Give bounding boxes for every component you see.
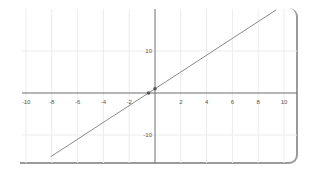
intercept-point[interactable] bbox=[153, 87, 157, 91]
graph-plot[interactable]: -10-8-6-4-224681010-10 bbox=[0, 0, 319, 173]
x-tick-label: -10 bbox=[22, 99, 31, 105]
y-tick-label: 10 bbox=[145, 48, 152, 54]
y-tick-label: -10 bbox=[143, 132, 152, 138]
x-tick-label: -8 bbox=[49, 99, 55, 105]
x-tick-label: 8 bbox=[257, 99, 261, 105]
x-tick-label: 6 bbox=[231, 99, 235, 105]
x-tick-label: 4 bbox=[205, 99, 209, 105]
x-tick-label: -4 bbox=[101, 99, 107, 105]
intercept-point[interactable] bbox=[147, 91, 151, 95]
x-tick-label: -6 bbox=[75, 99, 81, 105]
x-tick-label: 10 bbox=[281, 99, 288, 105]
x-tick-label: 2 bbox=[179, 99, 183, 105]
